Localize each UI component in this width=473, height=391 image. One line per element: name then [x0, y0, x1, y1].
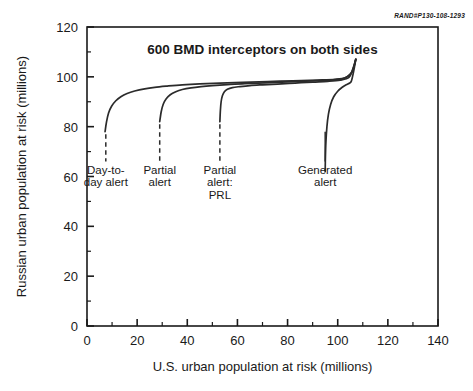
chart-title: 600 BMD interceptors on both sides: [147, 42, 377, 57]
y-tick-label: 60: [64, 170, 78, 185]
series-label: alert:: [207, 176, 233, 188]
x-tick-label: 60: [230, 333, 244, 348]
series-label: PRL: [209, 189, 232, 201]
x-tick-label: 100: [327, 333, 349, 348]
x-axis-title: U.S. urban population at risk (millions): [153, 359, 373, 374]
series-curve-generated-alert: [325, 59, 356, 171]
series-label: Partial: [143, 164, 176, 176]
chart-svg: 020406080100120140020406080100120 Day-to…: [0, 0, 473, 391]
rand-document-id: RAND#P130-108-1293: [394, 12, 465, 19]
x-tick-label: 80: [280, 333, 294, 348]
chart-figure: RAND#P130-108-1293 020406080100120140020…: [0, 0, 473, 391]
y-tick-label: 40: [64, 219, 78, 234]
labels-layer: Day-to-day alertPartialalertPartialalert…: [84, 124, 353, 200]
series-curve-day-to-day-alert: [105, 59, 356, 131]
series-label: Partial: [204, 164, 237, 176]
series-label: alert: [314, 176, 337, 188]
x-tick-label: 0: [83, 333, 90, 348]
y-tick-label: 120: [56, 20, 78, 35]
y-axis-title: Russian urban population at risk (millio…: [14, 56, 29, 297]
series-label: Day-to-: [87, 164, 125, 176]
y-tick-label: 80: [64, 120, 78, 135]
y-tick-label: 20: [64, 269, 78, 284]
series-label: day alert: [84, 176, 129, 188]
y-tick-label: 0: [71, 319, 78, 334]
x-tick-label: 140: [427, 333, 449, 348]
y-tick-label: 100: [56, 70, 78, 85]
x-tick-label: 40: [180, 333, 194, 348]
series-curve-partial-alert-prl: [220, 59, 356, 121]
curves-layer: [105, 59, 356, 171]
series-label: Generated: [298, 164, 352, 176]
titles-layer: 600 BMD interceptors on both sidesU.S. u…: [14, 42, 378, 374]
x-tick-label: 20: [130, 333, 144, 348]
x-tick-label: 120: [377, 333, 399, 348]
series-label: alert: [149, 176, 172, 188]
series-curve-partial-alert: [160, 59, 356, 121]
plot-frame: [87, 27, 438, 326]
